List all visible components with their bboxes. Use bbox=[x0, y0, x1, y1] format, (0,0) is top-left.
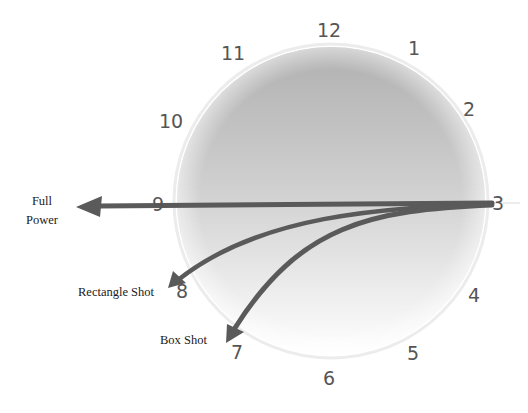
clock-number-11: 11 bbox=[221, 44, 245, 63]
full-power-label: Full Power bbox=[18, 192, 66, 230]
clock-number-2: 2 bbox=[463, 100, 475, 119]
clock-number-8: 8 bbox=[176, 282, 188, 301]
clock-number-7: 7 bbox=[231, 343, 243, 362]
clock-number-4: 4 bbox=[468, 286, 480, 305]
clock-number-10: 10 bbox=[159, 112, 183, 131]
clock-number-9: 9 bbox=[152, 195, 164, 214]
clock-number-5: 5 bbox=[407, 344, 419, 363]
clock-number-6: 6 bbox=[323, 369, 335, 388]
box-shot-label: Box Shot bbox=[160, 331, 207, 350]
rectangle-shot-label: Rectangle Shot bbox=[78, 283, 154, 302]
full-power-label-line2: Power bbox=[18, 211, 66, 230]
clock-diagram bbox=[0, 0, 528, 413]
full-power-label-line1: Full bbox=[18, 192, 66, 211]
clock-number-1: 1 bbox=[408, 39, 420, 58]
clock-number-3: 3 bbox=[492, 194, 504, 213]
clock-number-12: 12 bbox=[317, 21, 341, 40]
